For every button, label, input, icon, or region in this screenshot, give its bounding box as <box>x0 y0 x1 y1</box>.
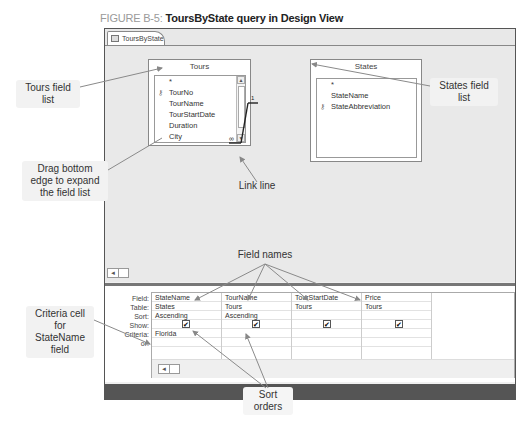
tab-label: ToursByState <box>122 35 164 42</box>
show-cell: ✔ <box>292 320 361 329</box>
row-label-or: or: <box>105 339 149 348</box>
key-icon: ⚷ <box>320 101 325 112</box>
tours-field-list-body: * ⚷TourNo TourName TourStartDate Duratio… <box>154 75 246 143</box>
callout-states-field-list: States field list <box>430 78 498 106</box>
field-item[interactable]: TourStartDate <box>155 109 245 120</box>
states-field-list[interactable]: States * StateName ⚷StateAbbreviation <box>310 59 422 162</box>
table-cell[interactable]: Tours <box>292 302 361 311</box>
field-cell[interactable]: StateName <box>152 293 221 302</box>
or-cell[interactable] <box>292 338 361 347</box>
callout-field-names: Field names <box>230 249 300 261</box>
show-cell: ✔ <box>362 320 431 329</box>
grid-column-tourname: TourName Tours Ascending ✔ <box>222 293 292 359</box>
field-item[interactable]: City <box>155 131 245 142</box>
field-cell[interactable]: TourStartDate <box>292 293 361 302</box>
field-cell[interactable]: TourName <box>222 293 291 302</box>
show-checkbox[interactable]: ✔ <box>395 320 403 328</box>
callout-link-line: Link line <box>227 180 287 192</box>
show-checkbox[interactable]: ✔ <box>252 320 260 328</box>
grid-column-statename: StateName States Ascending ✔ Florida <box>152 293 222 359</box>
callout-sort-orders: Sort orders <box>243 387 293 415</box>
field-item[interactable]: * <box>317 79 416 90</box>
table-cell[interactable]: Tours <box>222 302 291 311</box>
document-tab-bar: ToursByState <box>105 29 515 46</box>
table-cell[interactable]: States <box>152 302 221 311</box>
scroll-left-icon[interactable]: ◄ <box>108 269 119 277</box>
field-item[interactable]: TourName <box>155 98 245 109</box>
query-icon <box>111 35 119 42</box>
field-item[interactable]: * <box>155 76 245 87</box>
row-label-field: Field: <box>105 294 149 303</box>
table-cell[interactable]: Tours <box>362 302 431 311</box>
row-label-table: Table: <box>105 303 149 312</box>
callout-criteria-cell: Criteria cell for StateName field <box>26 306 94 358</box>
figure-number: FIGURE B-5: <box>100 12 163 24</box>
sort-cell[interactable]: Ascending <box>152 311 221 320</box>
or-cell[interactable] <box>362 338 431 347</box>
query-design-grid: StateName States Ascending ✔ Florida Tou… <box>151 292 515 378</box>
grid-column-price: Price Tours ✔ <box>362 293 432 359</box>
show-checkbox[interactable]: ✔ <box>182 320 190 328</box>
criteria-cell[interactable]: Florida <box>152 329 221 338</box>
callout-drag-bottom-edge: Drag bottom edge to expand the field lis… <box>22 161 108 201</box>
figure-caption: FIGURE B-5: ToursByState query in Design… <box>100 12 343 24</box>
tab-toursbystate[interactable]: ToursByState <box>107 31 165 45</box>
states-field-list-body: * StateName ⚷StateAbbreviation <box>316 78 417 158</box>
grid-row-labels: Field: Table: Sort: Show: Criteria: or: <box>105 294 149 348</box>
row-label-criteria: Criteria: <box>105 330 149 339</box>
field-item[interactable]: ⚷StateAbbreviation <box>317 101 416 112</box>
figure-title: ToursByState query in Design View <box>165 12 343 24</box>
show-cell: ✔ <box>222 320 291 329</box>
grid-horizontal-scrollbar[interactable]: ◄ <box>158 364 180 374</box>
field-item[interactable]: Duration <box>155 120 245 131</box>
grid-scroll-area: ◄ <box>152 359 514 378</box>
scroll-thumb[interactable] <box>238 86 245 128</box>
criteria-cell[interactable] <box>222 329 291 338</box>
sort-cell[interactable]: Ascending <box>222 311 291 320</box>
criteria-cell[interactable] <box>362 329 431 338</box>
row-label-sort: Sort: <box>105 312 149 321</box>
field-cell[interactable]: Price <box>362 293 431 302</box>
criteria-cell[interactable] <box>292 329 361 338</box>
or-cell[interactable] <box>222 338 291 347</box>
sort-cell[interactable] <box>292 311 361 320</box>
row-label-show: Show: <box>105 321 149 330</box>
show-cell: ✔ <box>152 320 221 329</box>
sort-cell[interactable] <box>362 311 431 320</box>
callout-tours-field-list: Tours field list <box>16 80 80 108</box>
table-pane-horizontal-scrollbar[interactable]: ◄ <box>107 268 129 278</box>
tours-vertical-scrollbar[interactable]: ▲ ▼ <box>236 76 245 142</box>
show-checkbox[interactable]: ✔ <box>323 320 331 328</box>
or-cell[interactable] <box>152 338 221 347</box>
field-item[interactable]: StateName <box>317 90 416 101</box>
design-grid-pane: Field: Table: Sort: Show: Criteria: or: … <box>105 286 515 382</box>
tours-field-list-title[interactable]: Tours <box>149 60 250 74</box>
scroll-up-icon[interactable]: ▲ <box>237 76 245 84</box>
status-bar <box>105 384 515 399</box>
key-icon: ⚷ <box>158 87 163 98</box>
states-field-list-title[interactable]: States <box>311 60 421 74</box>
field-item[interactable]: ⚷TourNo <box>155 87 245 98</box>
grid-column-tourstartdate: TourStartDate Tours ✔ <box>292 293 362 359</box>
tours-field-list[interactable]: Tours * ⚷TourNo TourName TourStartDate D… <box>148 59 251 146</box>
scroll-left-icon[interactable]: ◄ <box>159 365 170 373</box>
scroll-down-icon[interactable]: ▼ <box>237 134 245 142</box>
